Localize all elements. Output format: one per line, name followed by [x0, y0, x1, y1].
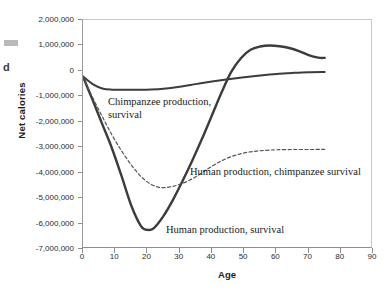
y-axis-title: Net calories [16, 56, 27, 166]
series-label-human-production-survival: Human production, survival [166, 224, 284, 237]
series-label-chimpanzee-production-survival: Chimpanzee production, survival [108, 96, 211, 121]
series-label-human-production-chimpanzee-survival: Human production, chimpanzee survival [190, 166, 361, 179]
chart-lines [83, 20, 373, 249]
y-axis-tick-label: -3,000,000 [36, 142, 74, 151]
y-axis-tick-label: 2,000,000 [38, 15, 74, 24]
y-axis-tick-label: -6,000,000 [36, 218, 74, 227]
scan-artifact-bar [4, 40, 18, 46]
x-axis-tick-label: 60 [271, 252, 280, 261]
x-axis-tick-label: 10 [110, 252, 119, 261]
series-line-chimpanzee-production-survival [83, 72, 325, 90]
x-axis-tick-label: 40 [206, 252, 215, 261]
figure-chart: d Net calories Age 2,000,0001,000,0000-1… [0, 0, 391, 290]
y-axis-tick-label: 1,000,000 [38, 40, 74, 49]
x-axis-tick-label: 80 [335, 252, 344, 261]
x-axis-tick-label: 50 [239, 252, 248, 261]
plot-area [82, 19, 372, 248]
y-axis-tick-label: 0 [70, 65, 74, 74]
x-axis-tick-label: 30 [174, 252, 183, 261]
x-axis-tick-label: 70 [303, 252, 312, 261]
y-axis-tick-label: -2,000,000 [36, 116, 74, 125]
x-axis-tick-label: 90 [368, 252, 377, 261]
y-axis-tick-label: -1,000,000 [36, 91, 74, 100]
x-axis-title: Age [82, 269, 372, 280]
x-axis-tick-label: 20 [142, 252, 151, 261]
scan-artifact-glyph: d [3, 62, 10, 73]
y-axis-tick-label: -4,000,000 [36, 167, 74, 176]
y-axis-tick-label: -5,000,000 [36, 193, 74, 202]
y-axis-tick-label: -7,000,000 [36, 244, 74, 253]
x-axis-tick-label: 0 [80, 252, 84, 261]
